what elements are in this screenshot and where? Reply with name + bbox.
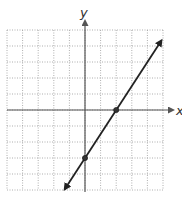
intercept-point [82, 155, 87, 160]
x-axis-label: x [175, 103, 182, 118]
plotted-line [65, 40, 162, 189]
intercept-point [114, 107, 119, 112]
coordinate-plane: x y [0, 0, 182, 197]
axes [7, 21, 173, 192]
y-axis-label: y [79, 5, 88, 20]
